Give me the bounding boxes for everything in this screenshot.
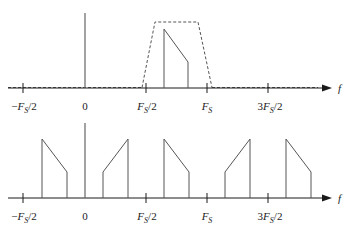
bottom-axis-variable-label: f (338, 192, 343, 204)
filter-response-trapezoid (142, 22, 212, 88)
bottom-panel: −FS/2 0 FS/2 FS 3FS/2 f (8, 123, 343, 225)
top-label-fs: FS (201, 100, 213, 115)
bottom-label-fs-over-2: FS/2 (136, 210, 156, 225)
top-label-three-fs-over-2: 3FS/2 (258, 100, 283, 115)
top-signal-spectrum (164, 29, 188, 88)
top-label-fs-over-2: FS/2 (136, 100, 156, 115)
top-axis-variable-label: f (338, 82, 343, 94)
bottom-replica-3 (164, 139, 189, 198)
bottom-replica-4 (225, 139, 250, 198)
bottom-replica-5 (286, 139, 311, 198)
spectrum-figure: −FS/2 0 FS/2 FS 3FS/2 f (0, 0, 352, 240)
bottom-label-fs: FS (201, 210, 213, 225)
top-panel: −FS/2 0 FS/2 FS 3FS/2 f (8, 13, 343, 115)
bottom-label-minus-fs-over-2: −FS/2 (11, 210, 37, 225)
bottom-label-zero: 0 (82, 210, 88, 222)
bottom-replica-1 (42, 139, 67, 198)
top-label-zero: 0 (82, 100, 88, 112)
bottom-axis-arrow (322, 195, 332, 202)
figure-canvas: −FS/2 0 FS/2 FS 3FS/2 f (0, 0, 352, 240)
bottom-replica-2 (103, 139, 128, 198)
top-label-minus-fs-over-2: −FS/2 (11, 100, 37, 115)
bottom-label-three-fs-over-2: 3FS/2 (258, 210, 283, 225)
top-axis-arrow (322, 85, 332, 92)
